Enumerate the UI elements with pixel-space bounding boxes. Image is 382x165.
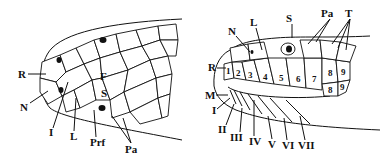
label-M: M xyxy=(205,89,216,101)
label-F: F xyxy=(100,70,107,82)
svg-text:9: 9 xyxy=(340,82,345,92)
label-S: S xyxy=(101,87,107,99)
left-panel-dorsal-view: F S R N I L Prf Pa xyxy=(18,19,182,155)
svg-text:5: 5 xyxy=(279,73,284,83)
svg-text:8: 8 xyxy=(328,85,333,95)
svg-text:VI: VI xyxy=(282,139,294,151)
dorsal-scales xyxy=(40,24,178,124)
svg-text:1: 1 xyxy=(226,66,231,76)
label-S: S xyxy=(286,12,292,24)
label-L: L xyxy=(70,130,77,142)
pit-dot xyxy=(100,37,107,43)
pit-dot xyxy=(99,105,106,111)
svg-text:6: 6 xyxy=(296,74,301,84)
svg-text:III: III xyxy=(230,131,243,143)
svg-text:IV: IV xyxy=(249,135,261,147)
svg-text:2: 2 xyxy=(236,68,241,78)
svg-text:VII: VII xyxy=(298,139,315,151)
snake-head-scales-diagram: F S R N I L Prf Pa xyxy=(0,0,382,165)
label-Prf: Prf xyxy=(90,136,106,148)
label-N: N xyxy=(20,101,28,113)
label-R: R xyxy=(18,68,27,80)
label-Pa: Pa xyxy=(321,7,334,19)
svg-text:4: 4 xyxy=(263,72,268,82)
nostril-dot xyxy=(57,57,62,63)
svg-text:9: 9 xyxy=(341,67,346,77)
label-T: T xyxy=(345,7,353,19)
right-panel-lateral-view: 1 2 3 4 5 6 7 8 9 8 9 N L S Pa T R M I xyxy=(205,7,380,151)
nostril-dot xyxy=(59,87,64,93)
label-L: L xyxy=(250,16,257,28)
label-R: R xyxy=(208,61,217,73)
svg-text:7: 7 xyxy=(312,74,317,84)
svg-text:V: V xyxy=(268,138,276,150)
pupil xyxy=(286,46,292,53)
svg-text:I: I xyxy=(212,104,216,116)
nostril-dot xyxy=(251,50,254,54)
svg-text:3: 3 xyxy=(248,70,253,80)
svg-text:8: 8 xyxy=(328,68,333,78)
label-N: N xyxy=(228,25,236,37)
svg-text:II: II xyxy=(218,123,227,135)
label-Pa: Pa xyxy=(125,143,138,155)
